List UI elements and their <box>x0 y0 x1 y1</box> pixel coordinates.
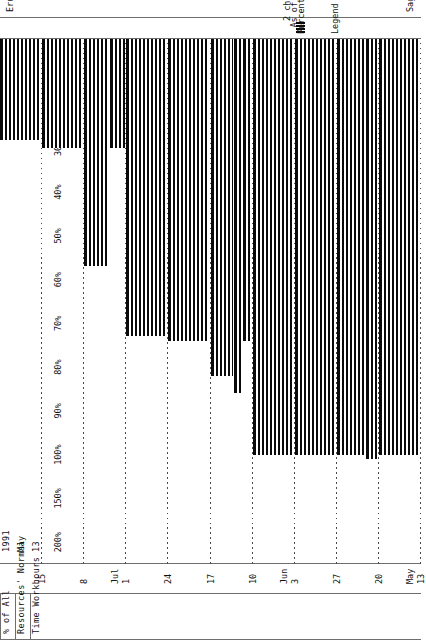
gridline-2 <box>336 39 337 564</box>
date-tick-4: 10 <box>248 574 258 584</box>
row-header-label-0: % of All <box>1 590 11 634</box>
date-tick-5: 17 <box>206 574 216 584</box>
utilization-bar <box>0 39 41 140</box>
utilization-bar <box>110 39 125 148</box>
utilization-bar <box>243 39 251 341</box>
row-header-label-2: Time Workhours <box>31 557 41 634</box>
utilization-bar <box>379 39 420 455</box>
utilization-bar <box>126 39 167 337</box>
legend-item-2: 2 characters (|) represent 1 day <box>282 0 292 21</box>
gridline-7 <box>125 39 126 564</box>
utilization-bar <box>253 39 294 455</box>
gridline-0 <box>420 39 421 564</box>
product-version: Sagacity 1.00 <box>405 0 415 12</box>
gridline-1 <box>378 39 379 564</box>
date-tick-8: 8 <box>79 579 89 584</box>
utilization-bar <box>366 39 378 459</box>
utilization-bar <box>295 39 336 455</box>
gridline-9 <box>41 39 42 564</box>
utilization-bar <box>42 39 83 148</box>
gridline-4 <box>252 39 253 564</box>
date-tick-0: 13May <box>416 574 426 584</box>
legend-block: Legend :Percentage UtilizationAs of Date… <box>0 16 421 36</box>
month-label-7: Jul <box>110 569 120 584</box>
utilization-bar <box>168 39 209 341</box>
utilization-plot <box>0 39 421 564</box>
date-tick-7: 1Jul <box>121 579 131 584</box>
utilization-bar <box>337 39 365 455</box>
utilization-bar <box>234 39 243 393</box>
copyright-note: Erudite Corporation (c) 1990 <box>5 0 15 12</box>
date-tick-2: 27 <box>332 574 342 584</box>
legend-title: Legend : <box>330 0 340 34</box>
month-label-3: Jun <box>279 569 289 584</box>
gridline-3 <box>294 39 295 564</box>
date-tick-9: 15 <box>37 574 47 584</box>
utilization-bar <box>84 39 109 267</box>
gridline-5 <box>210 39 211 564</box>
date-tick-3: 3Jun <box>290 579 300 584</box>
gridline-6 <box>167 39 168 564</box>
date-tick-1: 20 <box>374 574 384 584</box>
gridline-8 <box>83 39 84 564</box>
date-tick-6: 24 <box>163 574 173 584</box>
month-label-0: May <box>405 569 415 584</box>
utilization-bar <box>211 39 233 376</box>
